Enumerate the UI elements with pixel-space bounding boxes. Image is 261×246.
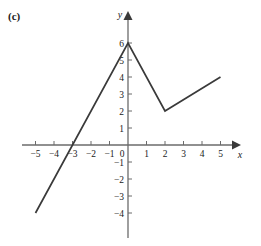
y-tick-label: −4 <box>114 209 124 219</box>
y-tick-label: −2 <box>114 175 124 185</box>
x-tick-label: 5 <box>218 149 223 159</box>
y-tick-label: 4 <box>119 73 124 83</box>
graph-plot: −5 −4 −3 −2 −1 0 1 2 3 4 5 1 2 3 4 5 6 −… <box>0 0 261 246</box>
y-tick-label: −1 <box>114 158 124 168</box>
y-tick-label: 6 <box>119 39 124 49</box>
x-tick-label: −4 <box>49 149 59 159</box>
x-axis-name-label: x <box>237 149 243 160</box>
y-tick-label: −3 <box>114 192 124 202</box>
y-axis-arrow-icon <box>124 11 133 20</box>
y-axis-name-label: y <box>117 9 123 20</box>
x-tick-label: −5 <box>30 149 40 159</box>
figure-canvas: (c) <box>0 0 261 246</box>
x-tick-label: −2 <box>86 149 96 159</box>
y-axis-labels-negative: −1 −2 −3 −4 <box>114 158 124 219</box>
x-tick-label: 2 <box>163 149 168 159</box>
y-tick-label: 3 <box>119 90 124 100</box>
y-tick-label: 1 <box>119 124 124 134</box>
x-axis-labels-negative: −5 −4 −3 −2 −1 <box>30 149 114 159</box>
x-tick-label: 4 <box>200 149 205 159</box>
x-axis-labels-positive: 1 2 3 4 5 <box>144 149 223 159</box>
x-tick-label: 3 <box>181 149 186 159</box>
x-tick-label: 1 <box>144 149 149 159</box>
y-tick-label: 2 <box>119 107 124 117</box>
